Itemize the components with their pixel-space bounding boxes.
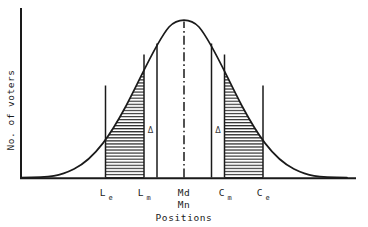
x-tick-label-le: L: [100, 187, 106, 198]
left-delta-label: Δ: [148, 126, 154, 135]
x-tick-sub-le: e: [108, 194, 112, 202]
figure-container: No. of voters Δ Δ L e L m Md Mn C m C e …: [0, 0, 368, 227]
right-extremist-band: [225, 14, 264, 178]
x-tick-sub-ce: e: [265, 194, 269, 202]
x-tick-label-lm: L: [138, 187, 144, 198]
right-delta-label: Δ: [215, 126, 221, 135]
x-tick-label-mn: Mn: [178, 199, 191, 210]
x-tick-sub-lm: m: [146, 194, 150, 202]
x-tick-sub-cm: m: [227, 194, 231, 202]
x-axis-label: Positions: [156, 212, 213, 223]
left-extremist-band: [106, 14, 145, 178]
x-tick-label-cm: C: [219, 187, 225, 198]
y-axis-label: No. of voters: [5, 70, 16, 151]
x-tick-label-ce: C: [257, 187, 263, 198]
distribution-chart: No. of voters Δ Δ L e L m Md Mn C m C e …: [0, 0, 368, 227]
x-tick-label-md: Md: [178, 187, 191, 198]
